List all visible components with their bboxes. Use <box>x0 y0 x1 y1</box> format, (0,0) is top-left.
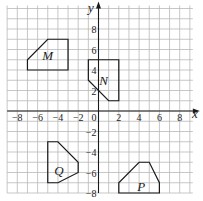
x-tick-label: 4 <box>137 112 142 123</box>
shape-label: P <box>136 179 145 194</box>
x-tick-label: −4 <box>53 112 64 123</box>
x-tick-label: −8 <box>12 112 23 123</box>
y-tick-label: 6 <box>92 45 97 56</box>
y-tick-label: −4 <box>86 147 97 158</box>
y-tick-label: −6 <box>86 168 97 179</box>
shape-label: N <box>98 73 109 88</box>
x-tick-label: −2 <box>73 112 84 123</box>
y-tick-label: −2 <box>86 127 97 138</box>
shape-label: M <box>41 48 54 63</box>
y-tick-label: −8 <box>86 188 97 199</box>
grid-lines <box>7 6 193 194</box>
x-tick-label: 6 <box>157 112 162 123</box>
x-tick-label: 2 <box>116 112 121 123</box>
axes <box>7 2 200 194</box>
x-axis-label: x <box>191 106 198 121</box>
y-axis-label: y <box>86 0 94 15</box>
y-tick-label: 8 <box>92 24 97 35</box>
origin-label: 0 <box>92 112 97 123</box>
y-tick-label: 4 <box>92 65 97 76</box>
shape-label: Q <box>54 163 64 178</box>
y-axis-arrow-icon <box>96 2 101 9</box>
x-tick-label: −6 <box>32 112 43 123</box>
x-tick-label: 8 <box>177 112 182 123</box>
coordinate-grid: −8−6−4−224688642−2−4−6−80 MNQP x y <box>0 0 203 201</box>
